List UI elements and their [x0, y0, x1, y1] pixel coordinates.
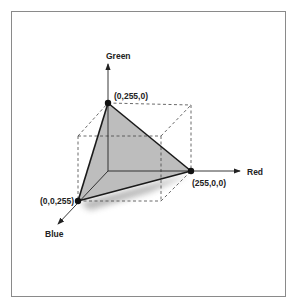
blue-axis-label: Blue — [45, 229, 64, 239]
vertex-red-label: (255,0,0) — [192, 178, 226, 188]
red-axis-label: Red — [247, 167, 263, 177]
vertex-red — [188, 168, 194, 174]
vertex-blue — [75, 198, 81, 204]
green-axis-label: Green — [106, 51, 131, 61]
vertex-blue-label: (0,0,255) — [40, 196, 74, 206]
vertex-green-label: (0,255,0) — [114, 91, 148, 101]
vertex-green — [105, 100, 111, 106]
rgb-cube-diagram: Green Red Blue (0,255,0) (255,0,0) (0,0,… — [0, 0, 297, 305]
